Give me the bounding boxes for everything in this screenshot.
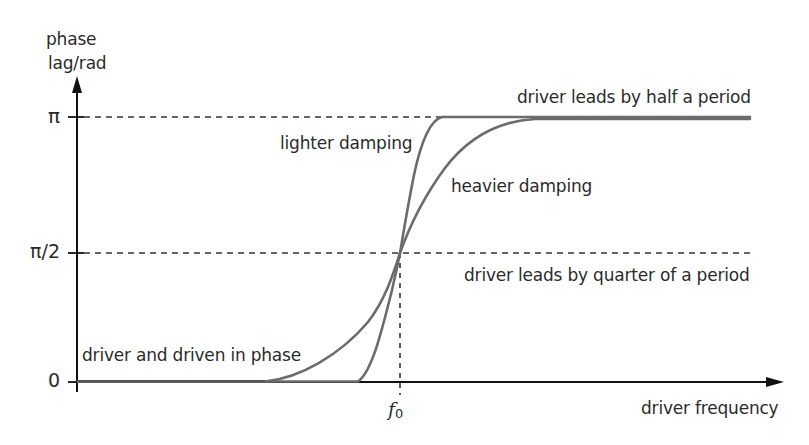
f0-subscript: 0 — [395, 406, 403, 421]
y-tick-label-zero: 0 — [18, 369, 60, 391]
x-axis-label: driver frequency — [641, 398, 778, 418]
in-phase-annotation: driver and driven in phase — [82, 345, 301, 365]
lighter-damping-curve — [78, 117, 750, 382]
y-tick-label-pi: π — [18, 104, 60, 128]
heavier-damping-label: heavier damping — [451, 176, 592, 196]
heavier-damping-curve — [78, 119, 750, 382]
f0-main: f — [388, 398, 395, 420]
y-tick-label-pi-half: π/2 — [10, 240, 60, 262]
y-axis-label-line2: lag/rad — [48, 53, 106, 73]
y-axis-arrow-icon — [72, 76, 82, 93]
y-axis-label-line1: phase — [46, 29, 96, 49]
x-tick-label-f0: f0 — [388, 398, 403, 421]
lighter-damping-label: lighter damping — [280, 133, 412, 153]
quarter-period-annotation: driver leads by quarter of a period — [464, 265, 750, 285]
half-period-annotation: driver leads by half a period — [517, 87, 751, 107]
phase-lag-chart — [0, 0, 809, 445]
x-axis-arrow-icon — [766, 377, 784, 387]
